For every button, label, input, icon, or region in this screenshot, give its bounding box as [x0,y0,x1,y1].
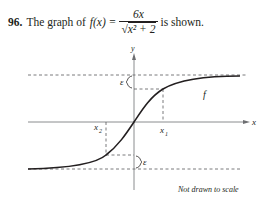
y-axis-label: y [130,44,135,53]
x1-label: x [159,125,164,135]
epsilon-upper-brace-icon [126,76,132,88]
curve-label: f [203,89,207,100]
x1-subscript: 1 [165,131,168,137]
function-graph: y x ε ε f x 1 x 2 [0,0,265,200]
epsilon-lower-brace-icon [136,156,142,168]
epsilon-upper-label: ε [120,77,124,87]
x-axis-arrow-icon [243,120,250,124]
y-axis-arrow-icon [132,53,136,60]
x2-subscript: 2 [99,128,102,134]
x2-label: x [93,122,98,132]
scale-note: Not drawn to scale [178,185,239,194]
epsilon-lower-label: ε [143,157,147,167]
x-axis-label: x [251,117,256,127]
